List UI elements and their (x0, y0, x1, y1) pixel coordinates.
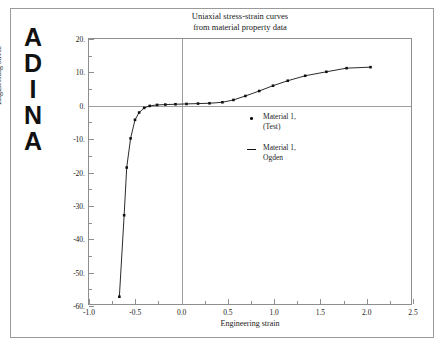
chart-title-line-2: from material property data (150, 22, 330, 33)
logo-letter-2: D (24, 50, 42, 76)
y-tick-label: -40. (73, 235, 85, 244)
data-series-layer (89, 39, 411, 304)
x-tick-label: 0.0 (177, 308, 186, 317)
x-axis-label: Engineering strain (88, 319, 412, 328)
y-axis-label: Engineering stress (0, 46, 3, 105)
x-tick-label: -1.0 (83, 308, 95, 317)
marker-dot-icon (247, 115, 258, 123)
legend-label-ogden-line-2: Ogden (263, 153, 296, 163)
legend-label-ogden-line-1: Material 1, (263, 143, 296, 153)
x-tick-label: 1.5 (316, 308, 325, 317)
x-tick-label: 0.5 (223, 308, 232, 317)
y-tick-label: 20. (76, 35, 85, 44)
legend-entry-test[interactable]: Material 1, (Test) (247, 112, 296, 132)
x-tick-label: 2.0 (362, 308, 371, 317)
y-tick-label: -10. (73, 135, 85, 144)
legend-label-test-line-2: (Test) (263, 122, 296, 132)
x-tick-label: 2.5 (408, 308, 417, 317)
legend-entry-ogden[interactable]: Material 1, Ogden (247, 143, 296, 163)
x-tick-label: 1.0 (269, 308, 278, 317)
y-tick-mark (89, 306, 94, 307)
logo-letter-5: A (24, 128, 42, 154)
x-tick-mark (413, 299, 414, 304)
logo-letter-4: N (24, 102, 42, 128)
legend-label-test-line-1: Material 1, (263, 112, 296, 122)
y-tick-label: 0. (79, 101, 85, 110)
chart-title: Uniaxial stress-strain curves from mater… (150, 11, 330, 33)
marker-line-icon (247, 146, 258, 154)
logo-letter-1: A (24, 24, 42, 50)
series-line-1 (119, 67, 370, 297)
y-tick-label: -30. (73, 201, 85, 210)
chart-title-line-1: Uniaxial stress-strain curves (150, 11, 330, 22)
plot-area: 20.10.0.-10.-20.-30.-40.-50.-60. -1.0-0.… (88, 38, 412, 305)
y-tick-label: 10. (76, 68, 85, 77)
chart-legend: Material 1, (Test) Material 1, Ogden (247, 112, 296, 163)
chart-screenshot: A D I N A Uniaxial stress-strain curves … (0, 0, 445, 351)
y-tick-label: -20. (73, 168, 85, 177)
adina-logo: A D I N A (16, 24, 50, 156)
x-tick-label: -0.5 (129, 308, 141, 317)
logo-letter-3: I (30, 76, 37, 102)
y-tick-label: -50. (73, 268, 85, 277)
